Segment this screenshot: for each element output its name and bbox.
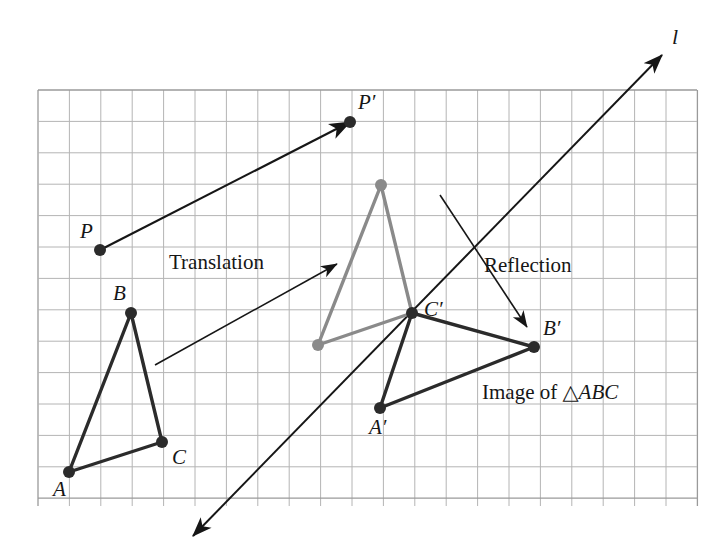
translation-label: Translation [169, 250, 264, 274]
point-a-prime [374, 402, 386, 414]
triangles [69, 185, 534, 472]
point-c [156, 436, 168, 448]
mirror-line-l [193, 55, 662, 536]
label-b: B [113, 281, 126, 305]
label-b-prime: B′ [543, 316, 561, 340]
geometry-figure: PP′ABCA′B′C′ lTranslationReflectionImage… [0, 0, 727, 560]
point-p-prime [344, 116, 356, 128]
reflection-label: Reflection [484, 253, 572, 277]
vertex-labels: PP′ABCA′B′C′ [51, 90, 561, 501]
figure-canvas: PP′ABCA′B′C′ lTranslationReflectionImage… [0, 0, 727, 560]
label-a-prime: A′ [367, 415, 387, 439]
point-b-prime [528, 341, 540, 353]
label-p-prime: P′ [357, 90, 376, 114]
label-a: A [51, 477, 66, 501]
point-c-prime [406, 307, 418, 319]
mirror-lines [193, 55, 662, 536]
point-b [125, 307, 137, 319]
point-bt [375, 179, 387, 191]
grid [38, 90, 697, 506]
label-c-prime: C′ [424, 297, 443, 321]
triangle-translated [318, 185, 412, 345]
label-p: P [79, 219, 93, 243]
point-p [94, 244, 106, 256]
point-at [312, 339, 324, 351]
annotations: lTranslationReflectionImage of △ABC [169, 24, 678, 404]
translation-callout [155, 264, 337, 365]
triangle-abc [69, 313, 162, 472]
line-l-label: l [672, 24, 678, 49]
translation-vector-p [100, 122, 350, 250]
label-c: C [172, 445, 187, 469]
image-label: Image of △ABC [482, 380, 619, 404]
